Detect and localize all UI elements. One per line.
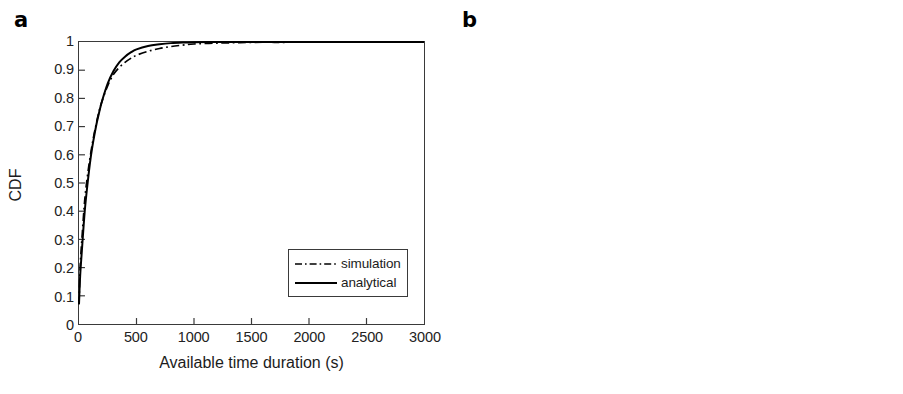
x-tick-label: 3000	[409, 329, 441, 345]
y-tick-label: 0.6	[54, 147, 74, 163]
panel-a-y-axis-title: CDF	[7, 155, 25, 215]
x-tick-label: 1500	[236, 329, 268, 345]
panel-a: a 00.10.20.30.40.50.60.70.80.91 05001000…	[0, 0, 452, 394]
y-tick-label: 0.2	[54, 260, 74, 276]
x-tick-label: 2500	[351, 329, 383, 345]
panel-a-legend: simulation analytical	[288, 249, 408, 297]
figure-container: a 00.10.20.30.40.50.60.70.80.91 05001000…	[0, 0, 903, 394]
legend-label-analytical: analytical	[341, 275, 396, 290]
panel-b-letter: b	[462, 10, 477, 31]
panel-a-y-tick-labels: 00.10.20.30.40.50.60.70.80.91	[28, 41, 74, 325]
solid-line-icon	[294, 277, 338, 289]
panel-a-x-tick-labels: 050010001500200025003000	[78, 329, 425, 353]
y-tick-label: 0.1	[54, 289, 74, 305]
y-tick-label: 0.7	[54, 118, 74, 134]
y-tick-label: 0.9	[54, 61, 74, 77]
y-tick-label: 1	[66, 33, 74, 49]
y-tick-label: 0.3	[54, 232, 74, 248]
y-tick-label: 0.8	[54, 90, 74, 106]
x-tick-label: 1000	[178, 329, 210, 345]
x-tick-label: 2000	[293, 329, 325, 345]
dash-dot-line-icon	[294, 258, 338, 270]
y-tick-label: 0.5	[54, 175, 74, 191]
x-tick-label: 0	[74, 329, 82, 345]
legend-entry-analytical: analytical	[294, 273, 401, 292]
x-tick-label: 500	[124, 329, 148, 345]
panel-b: b 0.40.50.60.70.80.91 010020030040050060…	[452, 0, 903, 394]
panel-a-x-axis-title: Available time duration (s)	[78, 354, 425, 372]
legend-label-simulation: simulation	[341, 256, 401, 271]
legend-entry-simulation: simulation	[294, 254, 401, 273]
y-tick-label: 0.4	[54, 203, 74, 219]
y-tick-label: 0	[66, 317, 74, 333]
panel-a-letter: a	[14, 10, 28, 31]
